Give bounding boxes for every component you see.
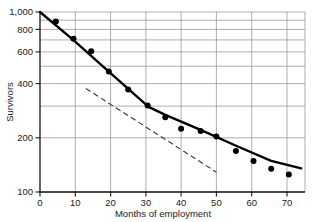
data-point bbox=[233, 148, 239, 154]
vertical-gridlines bbox=[75, 12, 305, 192]
y-tick-label: 200 bbox=[17, 132, 33, 143]
data-point bbox=[71, 36, 77, 42]
reference-trend-line bbox=[86, 89, 217, 173]
x-tick-label: 10 bbox=[70, 197, 81, 208]
data-point bbox=[88, 48, 94, 54]
y-tick-label: 800 bbox=[17, 24, 33, 35]
data-point bbox=[145, 103, 151, 109]
data-point bbox=[106, 68, 112, 74]
data-point bbox=[286, 171, 292, 177]
x-tick-label: 40 bbox=[176, 197, 187, 208]
data-point bbox=[251, 158, 257, 164]
y-tick-label: 1,000 bbox=[9, 6, 33, 17]
x-tick-label: 60 bbox=[246, 197, 257, 208]
x-tick-label: 30 bbox=[141, 197, 152, 208]
data-point bbox=[178, 126, 184, 132]
x-tick-label: 50 bbox=[211, 197, 222, 208]
y-tick-label: 400 bbox=[17, 78, 33, 89]
y-tick-label: 100 bbox=[17, 186, 33, 197]
data-point bbox=[162, 114, 168, 120]
horizontal-gridlines bbox=[40, 12, 305, 192]
data-point bbox=[198, 128, 204, 134]
data-point bbox=[53, 19, 59, 25]
chart-canvas: 1,000 800 600 400 200 100 0 10 20 30 40 … bbox=[0, 0, 313, 222]
x-axis-tick-labels: 0 10 20 30 40 50 60 70 bbox=[37, 197, 292, 208]
x-axis-title: Months of employment bbox=[115, 208, 211, 219]
fitted-survival-curve bbox=[40, 12, 301, 168]
data-point bbox=[213, 133, 219, 139]
y-tick-label: 600 bbox=[17, 46, 33, 57]
survivorship-chart: 1,000 800 600 400 200 100 0 10 20 30 40 … bbox=[0, 0, 313, 222]
axis-spines bbox=[39, 11, 305, 192]
data-point bbox=[125, 87, 131, 93]
y-axis-title: Survivors bbox=[4, 82, 15, 122]
x-tick-label: 20 bbox=[105, 197, 116, 208]
data-point bbox=[268, 166, 274, 172]
x-tick-label: 0 bbox=[37, 197, 42, 208]
x-tick-label: 70 bbox=[282, 197, 293, 208]
